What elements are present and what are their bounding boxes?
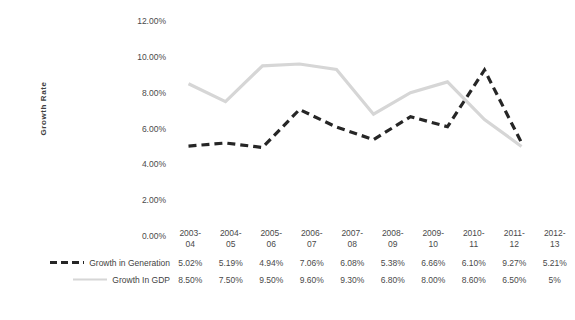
data-cell: 5.02% (170, 254, 211, 271)
legend-label: Growth In GDP (112, 275, 170, 285)
plot-area (170, 21, 540, 236)
x-axis-tick-label-line1: 2005- (251, 228, 292, 239)
data-cell: 7.06% (292, 254, 333, 271)
legend-and-data-table: 2003-042004-052005-062006-072007-082008-… (0, 228, 575, 288)
data-table: 2003-042004-052005-062006-072007-082008-… (0, 228, 575, 288)
data-cell: 8.00% (413, 271, 454, 288)
series-line-generation (189, 70, 522, 148)
x-axis-tick-label-line1: 2006- (292, 228, 333, 239)
data-cell: 4.94% (251, 254, 292, 271)
x-axis-tick-label-line2: 13 (535, 239, 575, 250)
legend-entry: Growth in Generation (0, 258, 170, 268)
x-axis-tick-label-line2: 11 (454, 239, 495, 250)
data-cell: 6.50% (494, 271, 535, 288)
data-cell: 9.30% (332, 271, 373, 288)
x-axis-tick-label-line2: 12 (494, 239, 535, 250)
data-table-row: Growth In GDP8.50%7.50%9.50%9.60%9.30%6.… (0, 271, 575, 288)
x-axis-tick-label-line2: 09 (373, 239, 414, 250)
data-cell: 9.27% (494, 254, 535, 271)
x-axis-tick-label-line2: 07 (292, 239, 333, 250)
legend-item-generation[interactable]: Growth in Generation (0, 254, 170, 271)
x-axis-tick-label: 2007-08 (332, 228, 373, 254)
x-axis-tick-label-line2: 06 (251, 239, 292, 250)
data-cell: 9.60% (292, 271, 333, 288)
y-axis-tick-label: 6.00% (104, 124, 166, 134)
x-axis-tick-label-line2: 10 (413, 239, 454, 250)
data-cell: 5.38% (373, 254, 414, 271)
growth-rate-line-chart: Growth Rate 12.00%10.00%8.00%6.00%4.00%2… (0, 0, 575, 320)
y-axis-title: Growth Rate (39, 59, 48, 159)
x-axis-tick-label: 2005-06 (251, 228, 292, 254)
data-cell: 8.60% (454, 271, 495, 288)
x-axis-tick-label: 2008-09 (373, 228, 414, 254)
x-axis-tick-label-line1: 2007- (332, 228, 373, 239)
data-cell: 5.21% (535, 254, 575, 271)
legend-line-marker-dashed (50, 258, 84, 267)
x-axis-tick-label: 2009-10 (413, 228, 454, 254)
x-axis-tick-label-line2: 05 (211, 239, 252, 250)
data-cell: 7.50% (211, 271, 252, 288)
data-cell: 6.08% (332, 254, 373, 271)
x-axis-tick-label-line1: 2011- (494, 228, 535, 239)
data-cell: 9.50% (251, 271, 292, 288)
x-axis-tick-label: 2011-12 (494, 228, 535, 254)
data-cell: 8.50% (170, 271, 211, 288)
y-axis-tick-label: 8.00% (104, 88, 166, 98)
x-axis-tick-label-line2: 04 (170, 239, 211, 250)
data-cell: 6.80% (373, 271, 414, 288)
legend-line-marker-solid (73, 275, 107, 284)
y-axis-tick-label: 4.00% (104, 159, 166, 169)
y-axis-tick-label: 2.00% (104, 195, 166, 205)
data-cell: 5.19% (211, 254, 252, 271)
legend-item-gdp[interactable]: Growth In GDP (0, 271, 170, 288)
x-axis-tick-label: 2010-11 (454, 228, 495, 254)
x-axis-tick-label-line2: 08 (332, 239, 373, 250)
x-axis-label-row: 2003-042004-052005-062006-072007-082008-… (0, 228, 575, 254)
y-axis-tick-label: 12.00% (104, 16, 166, 26)
x-axis-tick-label: 2012-13 (535, 228, 575, 254)
data-cell: 6.10% (454, 254, 495, 271)
x-axis-tick-label-line1: 2010- (454, 228, 495, 239)
x-axis-tick-label-line1: 2012- (535, 228, 575, 239)
x-axis-tick-label-line1: 2004- (211, 228, 252, 239)
x-axis-tick-label-line1: 2008- (373, 228, 414, 239)
x-axis-tick-label-line1: 2009- (413, 228, 454, 239)
x-axis-tick-label-line1: 2003- (170, 228, 211, 239)
y-axis-tick-label: 10.00% (104, 52, 166, 62)
x-axis-tick-label: 2004-05 (211, 228, 252, 254)
series-lines-svg (170, 21, 540, 236)
legend-entry: Growth In GDP (0, 275, 170, 285)
data-cell: 6.66% (413, 254, 454, 271)
x-axis-tick-label: 2006-07 (292, 228, 333, 254)
data-cell: 5% (535, 271, 575, 288)
legend-label: Growth in Generation (89, 258, 170, 268)
x-axis-tick-label: 2003-04 (170, 228, 211, 254)
y-axis-tick-labels: 12.00%10.00%8.00%6.00%4.00%2.00%0.00% (104, 14, 166, 244)
x-axis-row-spacer (0, 228, 170, 254)
data-table-row: Growth in Generation5.02%5.19%4.94%7.06%… (0, 254, 575, 271)
